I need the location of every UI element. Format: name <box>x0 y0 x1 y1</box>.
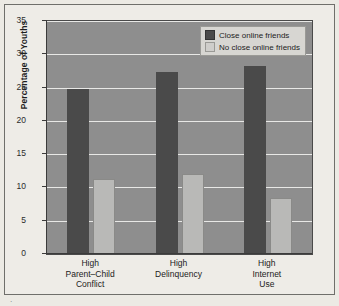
y-axis-tick-label: 30 <box>0 49 26 58</box>
y-axis-tick-label: 10 <box>0 182 26 191</box>
bar-close-online-friends <box>156 72 178 254</box>
y-axis-tick-label: 5 <box>0 216 26 225</box>
x-axis-category-label: HighParent–ChildConflict <box>42 258 138 290</box>
x-axis-label-line: Parent–Child <box>42 269 138 280</box>
legend-swatch-light <box>205 42 215 52</box>
y-axis-tick-label: 25 <box>0 83 26 92</box>
legend-label-close-online-friends: Close online friends <box>219 31 289 40</box>
x-axis-label-line: Internet <box>219 269 315 280</box>
bar-no-close-online-friends <box>93 179 115 254</box>
bar-close-online-friends <box>67 89 89 254</box>
bar-no-close-online-friends <box>270 198 292 254</box>
plot-area: Close online friends No close online fri… <box>46 20 313 255</box>
x-axis-label-line: High <box>42 258 138 269</box>
y-axis-tick-label: 0 <box>0 249 26 258</box>
y-axis-tick-label: 35 <box>0 16 26 25</box>
y-axis-line <box>46 20 47 254</box>
legend-label-no-close-online-friends: No close online friends <box>219 43 300 52</box>
scan-artifact-mark: · <box>10 299 15 305</box>
x-axis-category-label: HighDelinquency <box>131 258 227 279</box>
x-axis-label-line: High <box>219 258 315 269</box>
gridline <box>47 21 312 22</box>
bar-no-close-online-friends <box>182 174 204 254</box>
bar-close-online-friends <box>244 66 266 254</box>
x-axis-label-line: Use <box>219 279 315 290</box>
x-axis-label-line: Delinquency <box>131 269 227 280</box>
screenshot-page: Percentage of Youths 05101520253035 Clos… <box>0 0 339 306</box>
x-axis-category-label: HighInternetUse <box>219 258 315 290</box>
y-axis-tick-label: 15 <box>0 149 26 158</box>
chart-legend: Close online friends No close online fri… <box>200 26 306 56</box>
x-axis-label-line: High <box>131 258 227 269</box>
bar-chart-figure: Percentage of Youths 05101520253035 Clos… <box>0 0 339 306</box>
y-axis-tick-label: 20 <box>0 116 26 125</box>
legend-item-close-online-friends: Close online friends <box>205 30 300 40</box>
x-axis-label-line: Conflict <box>42 279 138 290</box>
legend-swatch-dark <box>205 30 215 40</box>
legend-item-no-close-online-friends: No close online friends <box>205 42 300 52</box>
x-axis-line <box>46 253 312 254</box>
